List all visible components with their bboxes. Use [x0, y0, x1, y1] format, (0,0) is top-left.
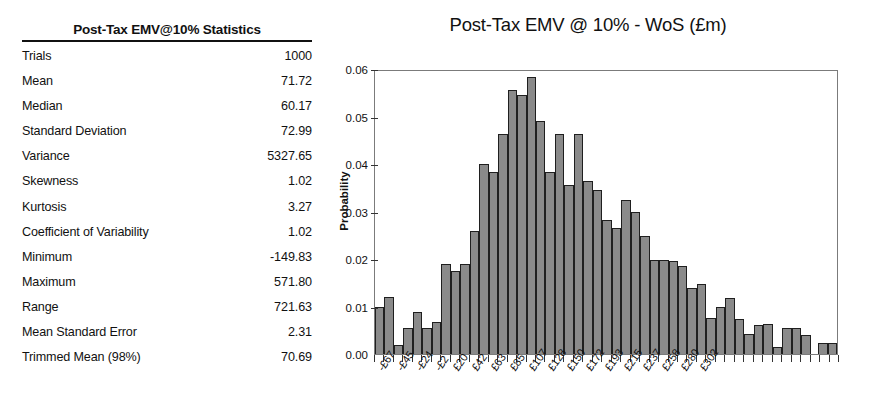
histogram-bar	[659, 260, 668, 354]
x-tick-mark	[705, 355, 706, 362]
histogram-bar	[384, 297, 393, 354]
statistic-label: Coefficient of Variability	[22, 220, 149, 245]
histogram-bar	[687, 288, 696, 355]
x-tick-mark	[450, 355, 451, 362]
statistic-value: -149.83	[270, 245, 312, 270]
histogram-bar	[828, 343, 837, 354]
x-tick-mark	[393, 355, 394, 362]
histogram-bar	[489, 172, 498, 354]
x-tick-mark	[743, 355, 744, 362]
y-tick-label: 0.01	[346, 302, 368, 314]
x-tick-mark	[791, 355, 792, 362]
y-tick-label: 0.02	[346, 254, 368, 266]
statistics-title-divider	[22, 40, 312, 42]
x-tick-mark	[734, 355, 735, 362]
histogram-bar	[432, 322, 441, 354]
x-tick-mark	[554, 355, 555, 362]
statistic-row: Variance5327.65	[22, 144, 312, 169]
statistic-row: Maximum571.80	[22, 270, 312, 295]
statistic-label: Maximum	[22, 270, 76, 295]
x-tick-mark	[592, 355, 593, 362]
histogram-bar	[583, 181, 592, 354]
x-tick-mark	[469, 355, 470, 362]
statistic-value: 70.69	[281, 345, 312, 370]
statistic-row: Standard Deviation72.99	[22, 119, 312, 144]
x-tick-mark	[412, 355, 413, 362]
x-tick-mark	[772, 355, 773, 362]
x-tick-mark	[630, 355, 631, 362]
x-tick-mark	[516, 355, 517, 362]
statistic-label: Range	[22, 295, 58, 320]
statistic-value: 72.99	[281, 119, 312, 144]
y-tick-label: 0.04	[346, 159, 368, 171]
statistic-label: Skewness	[22, 169, 78, 194]
y-tick-label: 0.05	[346, 112, 368, 124]
histogram-bar	[413, 312, 422, 354]
x-tick-mark	[838, 355, 839, 362]
statistic-value: 1.02	[288, 220, 312, 245]
statistic-label: Standard Deviation	[22, 119, 126, 144]
x-tick-mark	[582, 355, 583, 362]
x-tick-mark	[383, 355, 384, 362]
x-tick-mark	[810, 355, 811, 362]
x-tick-mark	[753, 355, 754, 362]
histogram-bar	[706, 318, 715, 354]
plot-area	[374, 70, 838, 355]
statistic-row: Minimum-149.83	[22, 245, 312, 270]
statistic-value: 3.27	[288, 195, 312, 220]
histogram-bar	[773, 347, 782, 354]
histogram-bar	[564, 185, 573, 354]
statistic-value: 5327.65	[267, 144, 312, 169]
histogram-bar	[631, 212, 640, 354]
chart-title: Post-Tax EMV @ 10% - WoS (£m)	[318, 14, 858, 36]
x-tick-mark	[431, 355, 432, 362]
x-tick-mark	[544, 355, 545, 362]
statistic-label: Kurtosis	[22, 195, 66, 220]
statistic-row: Trimmed Mean (98%)70.69	[22, 345, 312, 370]
histogram-bar	[818, 343, 827, 354]
x-tick-mark	[611, 355, 612, 362]
x-tick-mark	[374, 355, 375, 362]
x-tick-label: -£2	[432, 353, 451, 372]
x-tick-mark	[724, 355, 725, 362]
statistic-label: Trimmed Mean (98%)	[22, 345, 141, 370]
statistic-row: Mean Standard Error2.31	[22, 320, 312, 345]
histogram-bar	[498, 134, 507, 354]
histogram-bar	[754, 325, 763, 354]
y-axis-title: Probability	[338, 171, 350, 230]
statistic-label: Trials	[22, 44, 51, 69]
histogram-bar	[460, 264, 469, 354]
x-tick-mark	[819, 355, 820, 362]
x-tick-mark	[696, 355, 697, 362]
histogram-bar	[517, 95, 526, 354]
x-tick-mark	[507, 355, 508, 362]
x-tick-mark	[800, 355, 801, 362]
x-tick-mark	[677, 355, 678, 362]
statistic-label: Median	[22, 94, 62, 119]
statistic-value: 721.63	[274, 295, 312, 320]
histogram-bar	[479, 164, 488, 354]
histogram-bar	[744, 334, 753, 354]
statistic-row: Trials1000	[22, 44, 312, 69]
histogram-bar	[801, 335, 810, 354]
x-tick-mark	[563, 355, 564, 362]
x-tick-mark	[459, 355, 460, 362]
statistic-label: Mean Standard Error	[22, 320, 137, 345]
statistic-row: Coefficient of Variability1.02	[22, 220, 312, 245]
histogram-bars	[375, 71, 837, 354]
x-tick-mark	[829, 355, 830, 362]
x-tick-mark	[649, 355, 650, 362]
histogram-bar	[621, 200, 630, 354]
statistic-value: 571.80	[274, 270, 312, 295]
histogram-bar	[725, 298, 734, 354]
x-tick-mark	[686, 355, 687, 362]
histogram-bar	[697, 284, 706, 354]
histogram-bar	[451, 271, 460, 354]
histogram-bar	[593, 190, 602, 354]
histogram-bar	[441, 264, 450, 354]
histogram-bar	[650, 260, 659, 354]
histogram-bar	[527, 77, 536, 354]
x-tick-mark	[440, 355, 441, 362]
x-tick-mark	[620, 355, 621, 362]
statistic-label: Variance	[22, 144, 70, 169]
